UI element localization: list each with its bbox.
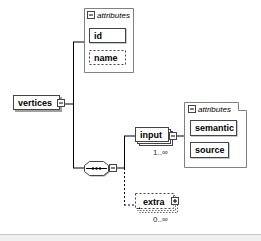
- attribute-source-label: source: [195, 145, 225, 155]
- sequence-compositor[interactable]: [85, 162, 117, 177]
- sequence-dot: [92, 167, 94, 169]
- sequence-dot: [95, 167, 97, 169]
- attribute-id-label: id: [94, 31, 102, 41]
- input-attributes-group: attributes semantic source: [185, 103, 247, 168]
- extra-cardinality: 0..∞: [153, 215, 168, 224]
- child-element-extra[interactable]: extra 0..∞: [136, 194, 179, 225]
- root-attributes-group: attributes id name: [85, 9, 134, 73]
- child-element-input[interactable]: input 1..∞: [136, 128, 177, 158]
- sequence-dot: [99, 167, 101, 169]
- extra-element-label: extra: [143, 197, 166, 207]
- root-element-label: vertices: [18, 98, 52, 108]
- attribute-semantic-label: semantic: [195, 123, 234, 133]
- root-element[interactable]: vertices: [14, 96, 65, 113]
- input-element-label: input: [140, 130, 162, 140]
- attributes-header: attributes: [97, 11, 130, 20]
- input-cardinality: 1..∞: [153, 148, 168, 157]
- attribute-name-label: name: [94, 53, 118, 63]
- attributes-header: attributes: [198, 105, 231, 114]
- bottom-scroll-area: [0, 234, 261, 241]
